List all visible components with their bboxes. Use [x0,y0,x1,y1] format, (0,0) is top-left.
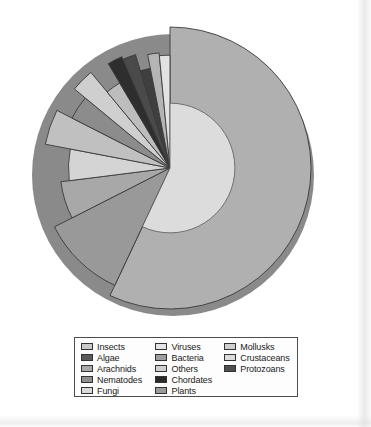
legend-column-1: Insects Algae Arachnids Nematodes Fungi [81,341,155,396]
legend-label-algae: Algae [97,353,120,363]
legend-label-fungi: Fungi [97,386,119,396]
legend-item-others[interactable]: Others [155,363,224,374]
legend-swatch-crustaceans [224,354,236,361]
legend-label-mollusks: Mollusks [240,342,274,352]
legend-item-bacteria[interactable]: Bacteria [155,352,224,363]
legend-item-protozoans[interactable]: Protozoans [224,363,293,374]
legend-item-viruses[interactable]: Viruses [155,341,224,352]
legend-label-nematodes: Nematodes [97,375,142,385]
page-sheet: Insects Algae Arachnids Nematodes Fungi [0,0,371,427]
legend-label-crustaceans: Crustaceans [240,353,289,363]
legend-label-others: Others [171,364,197,374]
legend-label-bacteria: Bacteria [171,353,203,363]
legend-label-insects: Insects [97,342,125,352]
legend-item-insects[interactable]: Insects [81,341,155,352]
legend-swatch-algae [81,354,93,361]
legend-swatch-protozoans [224,365,236,372]
legend-item-chordates[interactable]: Chordates [155,374,224,385]
legend-label-viruses: Viruses [171,342,200,352]
legend-item-mollusks[interactable]: Mollusks [224,341,293,352]
legend-item-algae[interactable]: Algae [81,352,155,363]
legend-item-fungi[interactable]: Fungi [81,385,155,396]
legend-item-crustaceans[interactable]: Crustaceans [224,352,293,363]
legend-swatch-insects [81,343,93,350]
legend-swatch-chordates [155,376,167,383]
legend-label-protozoans: Protozoans [240,364,285,374]
legend-column-3: Mollusks Crustaceans Protozoans [224,341,293,374]
legend-swatch-viruses [155,343,167,350]
legend-swatch-mollusks [224,343,236,350]
legend-swatch-bacteria [155,354,167,361]
legend-label-arachnids: Arachnids [97,364,136,374]
legend-swatch-others [155,365,167,372]
legend-swatch-fungi [81,387,93,394]
pie-chart-svg [20,8,340,328]
legend-swatch-plants [155,387,167,394]
legend-item-nematodes[interactable]: Nematodes [81,374,155,385]
legend-column-2: Viruses Bacteria Others Chordates Plants [155,341,224,396]
legend-columns: Insects Algae Arachnids Nematodes Fungi [81,341,293,393]
legend-swatch-arachnids [81,365,93,372]
legend-swatch-nematodes [81,376,93,383]
chart-legend: Insects Algae Arachnids Nematodes Fungi [74,337,298,397]
legend-item-plants[interactable]: Plants [155,385,224,396]
legend-item-arachnids[interactable]: Arachnids [81,363,155,374]
legend-label-chordates: Chordates [171,375,212,385]
legend-label-plants: Plants [171,386,195,396]
